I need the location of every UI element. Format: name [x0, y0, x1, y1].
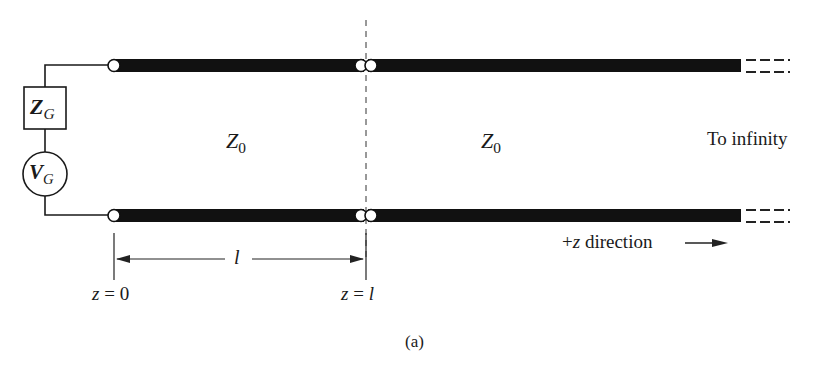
top-lead-wire	[45, 65, 113, 87]
arrowhead-right-icon	[350, 255, 364, 263]
position-label-z0: z = 0	[92, 283, 129, 305]
to-infinity-label: To infinity	[707, 128, 787, 150]
terminal-top-junction-right	[365, 60, 377, 72]
figure-caption: (a)	[405, 332, 424, 352]
bottom-conductor	[108, 209, 790, 222]
terminal-bottom-junction-right	[365, 210, 377, 222]
length-label: l	[234, 246, 240, 269]
position-label-zl: z = l	[341, 283, 374, 305]
section1-z0-label: Z0	[226, 128, 246, 157]
section2-z0-label: Z0	[481, 128, 501, 157]
arrowhead-left-icon	[116, 255, 130, 263]
generator-circuit	[23, 65, 113, 215]
terminal-bottom-left	[108, 210, 120, 222]
transmission-line-diagram	[0, 0, 822, 370]
length-dimension	[114, 233, 366, 280]
zg-label: ZG	[30, 94, 55, 123]
direction-label: +z direction	[562, 231, 652, 253]
terminal-top-left	[108, 60, 120, 72]
top-conductor	[108, 59, 790, 72]
direction-arrow-icon	[685, 239, 728, 247]
vg-label: VG	[29, 160, 54, 188]
bottom-lead-wire	[45, 196, 113, 215]
